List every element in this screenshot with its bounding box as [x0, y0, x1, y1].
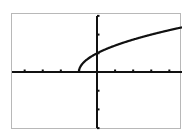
x-tick [168, 70, 170, 73]
y-tick [97, 15, 100, 17]
y-tick [97, 34, 100, 36]
x-tick [42, 70, 44, 73]
x-tick [150, 70, 152, 73]
plot-area [12, 14, 182, 130]
x-tick [24, 70, 26, 73]
y-tick [97, 108, 100, 110]
x-tick [114, 70, 116, 73]
y-tick [97, 90, 100, 92]
x-tick [132, 70, 134, 73]
function-curve [79, 27, 182, 72]
graph-screen [11, 13, 181, 129]
x-tick [60, 70, 62, 73]
y-tick [97, 127, 100, 129]
